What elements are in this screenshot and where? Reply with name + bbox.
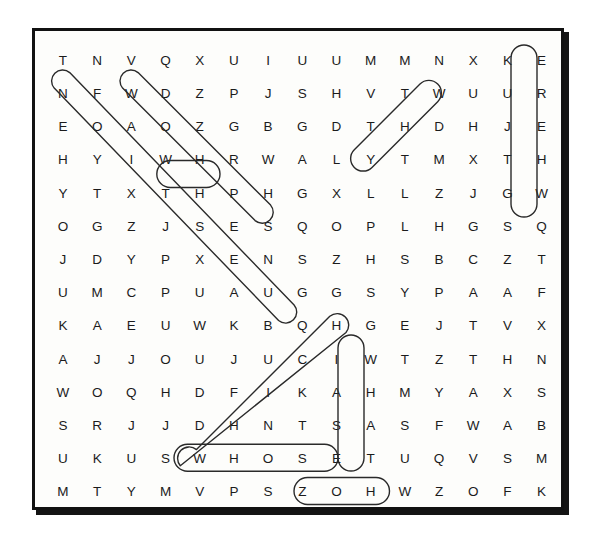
grid-cell[interactable]: U <box>217 54 251 68</box>
grid-cell[interactable]: M <box>388 54 422 68</box>
grid-cell[interactable]: F <box>217 386 251 400</box>
grid-cell[interactable]: U <box>149 319 183 333</box>
grid-cell[interactable]: G <box>217 120 251 134</box>
grid-cell[interactable]: S <box>388 419 422 433</box>
grid-cell[interactable]: R <box>525 87 559 101</box>
grid-cell[interactable]: A <box>114 120 148 134</box>
grid-cell[interactable]: D <box>320 120 354 134</box>
grid-cell[interactable]: H <box>149 386 183 400</box>
grid-cell[interactable]: K <box>46 319 80 333</box>
grid-cell[interactable]: E <box>114 319 148 333</box>
grid-cell[interactable]: U <box>114 452 148 466</box>
grid-cell[interactable]: V <box>114 54 148 68</box>
grid-cell[interactable]: H <box>388 120 422 134</box>
grid-cell[interactable]: J <box>422 319 456 333</box>
grid-cell[interactable]: T <box>285 419 319 433</box>
grid-cell[interactable]: H <box>525 153 559 167</box>
grid-cell[interactable]: S <box>285 87 319 101</box>
grid-cell[interactable]: H <box>183 187 217 201</box>
grid-cell[interactable]: T <box>388 353 422 367</box>
grid-cell[interactable]: V <box>456 452 490 466</box>
grid-cell[interactable]: H <box>251 187 285 201</box>
grid-cell[interactable]: J <box>114 353 148 367</box>
grid-cell[interactable]: L <box>388 220 422 234</box>
grid-cell[interactable]: M <box>149 485 183 499</box>
grid-cell[interactable]: B <box>525 419 559 433</box>
grid-cell[interactable]: T <box>456 353 490 367</box>
grid-cell[interactable]: H <box>217 452 251 466</box>
grid-cell[interactable]: E <box>217 253 251 267</box>
grid-cell[interactable]: G <box>285 187 319 201</box>
grid-cell[interactable]: R <box>217 153 251 167</box>
grid-cell[interactable]: N <box>46 87 80 101</box>
grid-cell[interactable]: X <box>525 319 559 333</box>
grid-cell[interactable]: W <box>183 319 217 333</box>
grid-cell[interactable]: R <box>80 419 114 433</box>
grid-cell[interactable]: E <box>525 54 559 68</box>
grid-cell[interactable]: J <box>217 353 251 367</box>
grid-cell[interactable]: H <box>456 120 490 134</box>
grid-cell[interactable]: J <box>149 220 183 234</box>
grid-cell[interactable]: U <box>490 87 524 101</box>
grid-cell[interactable]: P <box>149 286 183 300</box>
grid-cell[interactable]: Z <box>114 220 148 234</box>
grid-cell[interactable]: G <box>80 220 114 234</box>
grid-cell[interactable]: Z <box>320 253 354 267</box>
grid-cell[interactable]: G <box>456 220 490 234</box>
grid-cell[interactable]: T <box>80 187 114 201</box>
grid-cell[interactable]: M <box>525 452 559 466</box>
grid-cell[interactable]: F <box>525 286 559 300</box>
grid-cell[interactable]: X <box>456 54 490 68</box>
grid-cell[interactable]: E <box>320 452 354 466</box>
grid-cell[interactable]: Y <box>114 253 148 267</box>
grid-cell[interactable]: Y <box>46 187 80 201</box>
grid-cell[interactable]: J <box>114 419 148 433</box>
grid-cell[interactable]: S <box>251 220 285 234</box>
grid-cell[interactable]: L <box>354 187 388 201</box>
grid-cell[interactable]: U <box>285 54 319 68</box>
grid-cell[interactable]: U <box>46 286 80 300</box>
grid-cell[interactable]: S <box>354 286 388 300</box>
grid-cell[interactable]: A <box>46 353 80 367</box>
grid-cell[interactable]: G <box>285 286 319 300</box>
grid-cell[interactable]: H <box>320 87 354 101</box>
grid-cell[interactable]: O <box>320 485 354 499</box>
grid-cell[interactable]: S <box>388 253 422 267</box>
grid-cell[interactable]: W <box>422 87 456 101</box>
grid-cell[interactable]: S <box>285 452 319 466</box>
grid-cell[interactable]: J <box>251 87 285 101</box>
grid-cell[interactable]: Y <box>114 485 148 499</box>
grid-cell[interactable]: H <box>46 153 80 167</box>
grid-cell[interactable]: D <box>149 87 183 101</box>
grid-cell[interactable]: A <box>456 386 490 400</box>
grid-cell[interactable]: M <box>422 153 456 167</box>
grid-cell[interactable]: W <box>114 87 148 101</box>
grid-cell[interactable]: O <box>320 220 354 234</box>
grid-cell[interactable]: X <box>320 187 354 201</box>
grid-cell[interactable]: P <box>217 187 251 201</box>
grid-cell[interactable]: C <box>285 353 319 367</box>
grid-cell[interactable]: Q <box>114 386 148 400</box>
grid-cell[interactable]: V <box>183 485 217 499</box>
grid-cell[interactable]: F <box>490 485 524 499</box>
grid-cell[interactable]: U <box>388 452 422 466</box>
grid-cell[interactable]: M <box>354 54 388 68</box>
grid-cell[interactable]: P <box>149 253 183 267</box>
grid-cell[interactable]: S <box>285 253 319 267</box>
grid-cell[interactable]: X <box>114 187 148 201</box>
grid-cell[interactable]: Q <box>422 452 456 466</box>
grid-cell[interactable]: Z <box>490 253 524 267</box>
grid-cell[interactable]: P <box>217 87 251 101</box>
grid-cell[interactable]: W <box>251 153 285 167</box>
grid-cell[interactable]: A <box>217 286 251 300</box>
grid-cell[interactable]: O <box>80 120 114 134</box>
grid-cell[interactable]: L <box>320 153 354 167</box>
grid-cell[interactable]: Z <box>285 485 319 499</box>
grid-cell[interactable]: A <box>490 419 524 433</box>
grid-cell[interactable]: S <box>525 386 559 400</box>
grid-cell[interactable]: E <box>525 120 559 134</box>
grid-cell[interactable]: O <box>456 485 490 499</box>
grid-cell[interactable]: U <box>251 286 285 300</box>
grid-cell[interactable]: U <box>251 353 285 367</box>
grid-cell[interactable]: V <box>354 87 388 101</box>
